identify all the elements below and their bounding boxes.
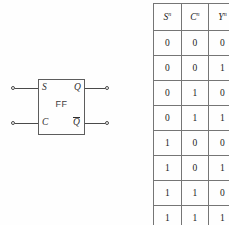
q-bar-overbar: Q xyxy=(73,117,80,128)
set-input-label: S xyxy=(42,83,47,93)
q-output-label: Q xyxy=(74,83,81,93)
cell-y: 0 xyxy=(209,131,229,156)
cell-y: 0 xyxy=(209,81,229,106)
cell-s: 1 xyxy=(154,206,182,226)
cell-s: 0 xyxy=(154,81,182,106)
q-bar-output-wire xyxy=(85,123,105,124)
cell-y: 1 xyxy=(209,156,229,181)
cell-y: 0 xyxy=(209,181,229,206)
table-header-row: Sn Cn Yn xyxy=(154,4,230,31)
cell-c: 1 xyxy=(181,81,209,106)
column-header-y-superscript: n xyxy=(224,11,227,17)
set-input-wire xyxy=(15,88,38,89)
table-row: 0 0 1 xyxy=(154,56,230,81)
cell-c: 0 xyxy=(181,131,209,156)
q-output-wire xyxy=(85,88,105,89)
cell-y: 1 xyxy=(209,56,229,81)
cell-c: 1 xyxy=(181,106,209,131)
table-row: 1 0 0 xyxy=(154,131,230,156)
clear-input-label: C xyxy=(42,118,48,128)
cell-s: 0 xyxy=(154,56,182,81)
q-bar-output-label: Q xyxy=(73,117,80,128)
table-row: 1 0 1 xyxy=(154,156,230,181)
cell-c: 1 xyxy=(181,181,209,206)
column-header-s-superscript: n xyxy=(168,11,171,17)
table-row: 1 1 1 xyxy=(154,206,230,226)
table-row: 1 1 0 xyxy=(154,181,230,206)
column-header-s: Sn xyxy=(154,4,182,31)
cell-s: 0 xyxy=(154,31,182,56)
cell-y: 1 xyxy=(209,206,229,226)
truth-table-header: Sn Cn Yn xyxy=(154,4,230,31)
truth-table-container: Sn Cn Yn 0 0 0 0 0 1 0 1 xyxy=(153,3,229,225)
cell-y: 1 xyxy=(209,106,229,131)
flip-flop-block-label: FF xyxy=(38,99,85,109)
truth-table: Sn Cn Yn 0 0 0 0 0 1 0 1 xyxy=(153,3,229,225)
q-output-terminal xyxy=(105,86,109,90)
column-header-y: Yn xyxy=(209,4,229,31)
cell-s: 1 xyxy=(154,181,182,206)
q-bar-output-terminal xyxy=(105,121,109,125)
column-header-c: Cn xyxy=(181,4,209,31)
cell-c: 1 xyxy=(181,206,209,226)
cell-s: 1 xyxy=(154,156,182,181)
cell-s: 1 xyxy=(154,131,182,156)
cell-s: 0 xyxy=(154,106,182,131)
truth-table-body: 0 0 0 0 0 1 0 1 0 0 1 1 xyxy=(154,31,230,226)
clear-input-wire xyxy=(15,123,38,124)
flip-flop-diagram: S C Q Q FF xyxy=(0,0,150,225)
figure-root: S C Q Q FF Sn Cn Yn 0 0 0 xyxy=(0,0,229,225)
table-row: 0 1 0 xyxy=(154,81,230,106)
cell-c: 0 xyxy=(181,56,209,81)
cell-c: 0 xyxy=(181,31,209,56)
table-row: 0 1 1 xyxy=(154,106,230,131)
cell-c: 0 xyxy=(181,156,209,181)
cell-y: 0 xyxy=(209,31,229,56)
column-header-c-superscript: n xyxy=(197,11,200,17)
table-row: 0 0 0 xyxy=(154,31,230,56)
